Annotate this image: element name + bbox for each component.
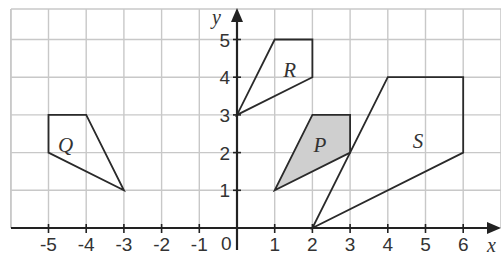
shape-label-r: R — [282, 58, 296, 82]
x-tick-label: 3 — [345, 234, 356, 255]
x-axis-arrow-icon — [487, 222, 501, 234]
tick-labels: -5-4-3-2-112345612345 — [40, 30, 468, 256]
x-tick-label: -2 — [153, 234, 170, 255]
y-tick-label: 2 — [219, 143, 230, 164]
y-tick-label: 1 — [219, 180, 230, 201]
y-axis-arrow-icon — [231, 8, 243, 22]
y-tick-label: 3 — [219, 105, 230, 126]
x-tick-label: 4 — [383, 234, 394, 255]
axes: x y 0 — [11, 6, 501, 256]
x-tick-label: -5 — [40, 234, 57, 255]
x-axis-label: x — [486, 234, 496, 256]
x-tick-label: 5 — [420, 234, 431, 255]
x-tick-label: 2 — [307, 234, 318, 255]
x-tick-label: -4 — [78, 234, 95, 255]
coordinate-diagram: x y 0 -5-4-3-2-112345612345 QRPS — [0, 0, 501, 262]
x-tick-label: -3 — [115, 234, 132, 255]
x-tick-label: -1 — [191, 234, 208, 255]
origin-label: 0 — [221, 233, 232, 254]
y-tick-label: 4 — [219, 67, 230, 88]
shapes — [49, 40, 464, 229]
shape-label-q: Q — [58, 133, 73, 157]
grid — [11, 9, 501, 228]
shape-label-s: S — [413, 129, 424, 153]
x-tick-label: 6 — [458, 234, 469, 255]
x-tick-label: 1 — [269, 234, 280, 255]
y-tick-label: 5 — [219, 30, 230, 51]
y-axis-label: y — [210, 6, 221, 29]
shape-label-p: P — [313, 133, 327, 157]
